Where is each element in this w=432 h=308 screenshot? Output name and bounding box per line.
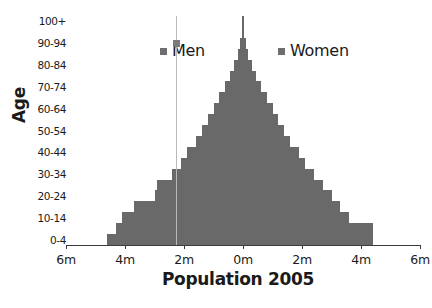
bar-right-25-29 — [243, 180, 323, 192]
bar-right-70-74 — [243, 81, 261, 93]
bar-right-30-34 — [243, 169, 314, 181]
center-axis-line — [176, 16, 177, 245]
bar-right-90-94 — [243, 38, 246, 50]
bar-left-40-44 — [187, 147, 243, 159]
x-axis-tickmark — [420, 245, 421, 249]
bar-left-5-9 — [116, 223, 243, 235]
bar-right-85-89 — [243, 49, 248, 61]
bar-right-100+ — [243, 16, 244, 28]
y-axis-tick-label: 50-54 — [8, 126, 66, 136]
bar-right-20-24 — [243, 190, 332, 202]
y-axis-tick-label: 80-84 — [8, 60, 66, 70]
bar-left-10-14 — [122, 212, 243, 224]
y-axis-tick-label: 60-64 — [8, 104, 66, 114]
bar-right-65-69 — [243, 92, 267, 104]
y-axis-tick-label: 30-34 — [8, 169, 66, 179]
x-axis-tickmark — [243, 245, 244, 249]
y-axis-tick-label: 70-74 — [8, 82, 66, 92]
x-axis-tickmark — [66, 245, 67, 249]
bar-right-35-39 — [243, 158, 305, 170]
x-axis-tickmark — [184, 245, 185, 249]
bar-right-60-64 — [243, 103, 273, 115]
center-axis-cap-marker — [173, 40, 180, 47]
x-axis-tickmark — [361, 245, 362, 249]
x-axis-tick-label: 4m — [341, 252, 381, 267]
bar-right-55-59 — [243, 114, 278, 126]
bar-right-15-19 — [243, 201, 340, 213]
bar-left-50-54 — [202, 125, 243, 137]
x-axis-tick-label: 6m — [46, 252, 86, 267]
y-axis-tick-label: 20-24 — [8, 191, 66, 201]
x-axis-tick-label: 4m — [105, 252, 145, 267]
plot-area — [67, 16, 420, 245]
bar-right-75-79 — [243, 71, 256, 83]
x-axis-tickmark — [125, 245, 126, 249]
bar-right-50-54 — [243, 125, 284, 137]
bar-left-15-19 — [134, 201, 243, 213]
chart-title: Population 2005 — [0, 269, 432, 289]
bar-left-70-74 — [225, 81, 243, 93]
bar-left-75-79 — [230, 71, 243, 83]
bar-right-10-14 — [243, 212, 349, 224]
bar-left-25-29 — [157, 180, 243, 192]
bar-right-0-4 — [243, 234, 373, 246]
x-axis-tick-label: 2m — [164, 252, 204, 267]
x-axis-tick-label: 6m — [400, 252, 432, 267]
bar-right-80-84 — [243, 60, 252, 72]
bar-right-40-44 — [243, 147, 299, 159]
bar-right-5-9 — [243, 223, 373, 235]
bar-left-30-34 — [172, 169, 243, 181]
bar-left-35-39 — [181, 158, 243, 170]
bar-left-60-64 — [214, 103, 244, 115]
bar-left-65-69 — [219, 92, 243, 104]
bar-right-45-49 — [243, 136, 290, 148]
bar-left-20-24 — [155, 190, 244, 202]
bar-left-55-59 — [208, 114, 243, 126]
bar-right-95-99 — [243, 27, 244, 39]
bar-left-80-84 — [234, 60, 243, 72]
y-axis-tick-label: 40-44 — [8, 147, 66, 157]
y-axis-tick-label: 10-14 — [8, 213, 66, 223]
x-axis-tickmark — [302, 245, 303, 249]
x-axis-tick-label: 0m — [223, 252, 263, 267]
x-axis-tick-label: 2m — [282, 252, 322, 267]
bar-left-45-49 — [196, 136, 243, 148]
y-axis-tick-label: 0-4 — [8, 235, 66, 245]
population-pyramid-chart: Age 0-410-1420-2430-3440-4450-5460-6470-… — [0, 0, 432, 308]
